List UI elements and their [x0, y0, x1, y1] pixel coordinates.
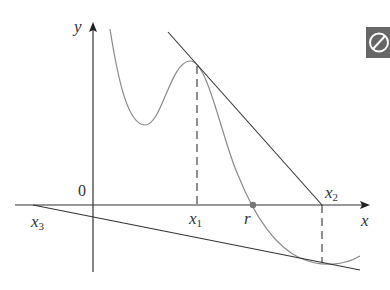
r-label: r	[244, 210, 251, 227]
x3-label: x3	[31, 213, 44, 232]
x2-label-sub: 2	[333, 191, 339, 203]
x2-label: x2	[325, 184, 338, 203]
diagram-canvas	[0, 0, 390, 290]
x3-label-var: x	[31, 212, 39, 231]
function-curve	[110, 29, 360, 264]
origin-label: 0	[78, 183, 86, 199]
x-axis-label: x	[361, 212, 369, 229]
no-entry-glyph	[366, 27, 390, 58]
x3-label-sub: 3	[39, 220, 45, 232]
x2-label-var: x	[325, 183, 333, 202]
tangent-line-x1	[168, 32, 322, 205]
x1-label-sub: 1	[197, 217, 203, 229]
y-axis-label: y	[74, 18, 82, 35]
no-entry-icon	[366, 27, 390, 58]
x1-label: x1	[189, 210, 202, 229]
root-point	[250, 202, 256, 208]
x1-label-var: x	[189, 209, 197, 228]
